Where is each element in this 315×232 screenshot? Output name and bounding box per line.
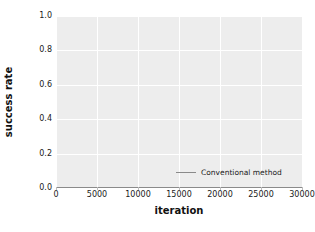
legend-label-conventional-method: Conventional method bbox=[201, 168, 282, 177]
x-axis-tick-labels: 050001000015000200002500030000 bbox=[56, 190, 302, 202]
x-axis-tick-mark bbox=[97, 187, 98, 190]
series-svg bbox=[56, 16, 302, 188]
y-axis-tick-label: 0.2 bbox=[4, 150, 52, 158]
x-axis-tick-mark bbox=[302, 187, 303, 190]
y-axis-tick-label: 0.8 bbox=[4, 46, 52, 54]
x-axis-label: iteration bbox=[56, 205, 302, 216]
chart-legend: Conventional method bbox=[176, 168, 282, 177]
y-axis-tick-label: 0.6 bbox=[4, 81, 52, 89]
x-axis-tick-label: 0 bbox=[36, 190, 76, 200]
y-axis-tick-label: 1.0 bbox=[4, 12, 52, 20]
x-axis-tick-mark bbox=[56, 187, 57, 190]
x-axis-tick-label: 25000 bbox=[241, 190, 281, 200]
x-axis-tick-label: 15000 bbox=[159, 190, 199, 200]
x-axis-tick-label: 20000 bbox=[200, 190, 240, 200]
x-axis-tick-mark bbox=[220, 187, 221, 190]
x-axis-tick-label: 30000 bbox=[282, 190, 315, 200]
plot-area bbox=[56, 16, 302, 188]
x-axis-tick-mark bbox=[179, 187, 180, 190]
x-axis-tick-label: 10000 bbox=[118, 190, 158, 200]
legend-line-swatch bbox=[176, 172, 196, 173]
y-axis-tick-labels: 0.00.20.40.60.81.0 bbox=[0, 16, 52, 188]
chart-figure: success rate 0.00.20.40.60.81.0 05000100… bbox=[0, 0, 315, 232]
x-axis-tick-label: 5000 bbox=[77, 190, 117, 200]
x-axis-tick-mark bbox=[138, 187, 139, 190]
y-axis-tick-label: 0.4 bbox=[4, 115, 52, 123]
x-axis-tick-mark bbox=[261, 187, 262, 190]
